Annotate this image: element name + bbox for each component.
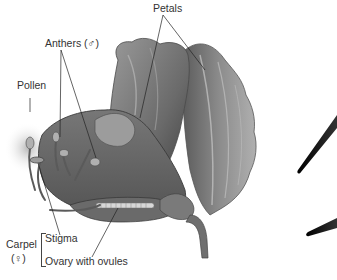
ovules bbox=[96, 203, 154, 208]
label-ovary: Ovary with ovules bbox=[45, 256, 128, 267]
flower-diagram: Petals Anthers (♂) Pollen Carpel (♀) Sti… bbox=[0, 0, 337, 280]
stigma bbox=[30, 157, 44, 163]
spike-upper bbox=[297, 115, 337, 173]
label-carpel: Carpel bbox=[6, 239, 37, 250]
spike-lower bbox=[306, 218, 337, 236]
label-pollen: Pollen bbox=[17, 80, 46, 91]
label-stigma: Stigma bbox=[45, 233, 78, 244]
stem bbox=[186, 215, 208, 258]
label-petals: Petals bbox=[153, 3, 182, 14]
label-anthers: Anthers (♂) bbox=[45, 38, 99, 49]
label-carpel-symbol: (♀) bbox=[11, 253, 26, 264]
